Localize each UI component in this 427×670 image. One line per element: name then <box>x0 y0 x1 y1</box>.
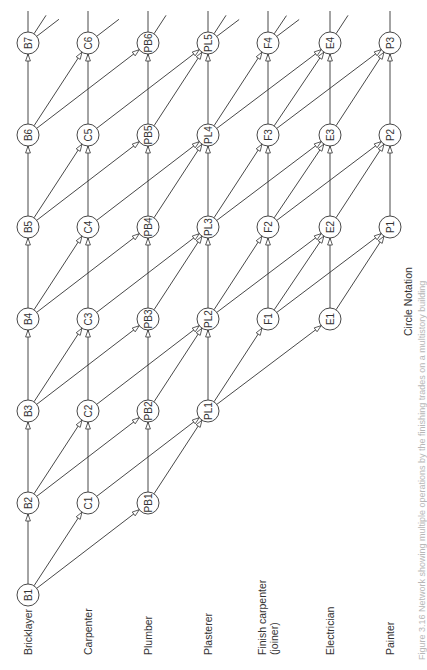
arrowhead-icon <box>76 236 82 243</box>
edge-F2-E3 <box>274 144 324 218</box>
svg-text:F4: F4 <box>263 37 274 49</box>
svg-text:E2: E2 <box>325 220 336 233</box>
figure-caption: Figure 3.16 Network showing multiple ope… <box>417 281 427 660</box>
arrowhead-icon <box>206 146 211 153</box>
arrowhead-icon <box>256 52 262 59</box>
node-pl4: PL4 <box>197 124 219 146</box>
arrowhead-icon <box>328 146 333 153</box>
edge-PB2-PL2 <box>154 328 202 402</box>
svg-text:PB3: PB3 <box>143 309 154 328</box>
edge-B4-C4 <box>34 236 82 310</box>
arrowhead-icon <box>76 144 82 151</box>
svg-text:E4: E4 <box>325 36 336 49</box>
svg-text:P3: P3 <box>385 36 396 49</box>
arrowhead-icon <box>206 54 211 61</box>
arrowhead-icon <box>76 328 82 335</box>
edge-B3-B4 <box>26 330 31 400</box>
arrowhead-icon <box>26 422 31 429</box>
svg-text:P2: P2 <box>385 128 396 141</box>
svg-text:E3: E3 <box>325 128 336 141</box>
svg-text:PB6: PB6 <box>143 33 154 52</box>
edge-C3-C4 <box>86 238 91 308</box>
edge-B1-B2 <box>26 514 31 584</box>
arrowhead-icon <box>146 330 151 337</box>
edge-PB3-PL3 <box>154 236 202 310</box>
node-pl3: PL3 <box>197 216 219 238</box>
arrowhead-icon <box>86 54 91 61</box>
arrowhead-icon <box>206 238 211 245</box>
edge-PL1-PL2 <box>206 330 211 400</box>
node-f2: F2 <box>257 216 279 238</box>
edge-PB4-PL4 <box>154 144 202 218</box>
arrowhead-icon <box>26 514 31 521</box>
arrowhead-icon <box>328 54 333 61</box>
svg-text:B5: B5 <box>23 220 34 233</box>
node-pb1: PB1 <box>137 492 159 514</box>
stub-PB6-PL <box>154 15 166 33</box>
node-f3: F3 <box>257 124 279 146</box>
node-b2: B2 <box>17 492 39 514</box>
node-b5: B5 <box>17 216 39 238</box>
svg-text:PL4: PL4 <box>203 126 214 144</box>
node-p2: P2 <box>379 124 401 146</box>
node-c5: C5 <box>77 124 99 146</box>
svg-text:B2: B2 <box>23 496 34 509</box>
svg-text:C2: C2 <box>83 404 94 417</box>
svg-text:F1: F1 <box>263 313 274 325</box>
svg-text:PL1: PL1 <box>203 402 214 420</box>
arrowhead-icon <box>86 422 91 429</box>
edge-PL1-E1 <box>217 326 321 405</box>
trade-label-finish-carpenter: Finish carpenter(joiner) <box>256 580 280 655</box>
arrowhead-icon <box>206 330 211 337</box>
arrowhead-icon <box>266 54 271 61</box>
edge-P1-P2 <box>388 146 393 216</box>
arrowhead-icon <box>76 420 82 427</box>
edge-PL4-PL5 <box>206 54 211 124</box>
node-c4: C4 <box>77 216 99 238</box>
stub-PL5-E <box>217 20 239 37</box>
edge-F3-E4 <box>274 52 324 126</box>
arrowhead-icon <box>86 238 91 245</box>
node-e4: E4 <box>319 32 341 54</box>
arrowhead-icon <box>146 422 151 429</box>
svg-text:B6: B6 <box>23 128 34 141</box>
edge-PL1-F1 <box>214 328 262 402</box>
svg-text:F3: F3 <box>263 129 274 141</box>
node-p3: P3 <box>379 32 401 54</box>
node-pl5: PL5 <box>197 32 219 54</box>
edge-PB1-PL1 <box>154 420 202 494</box>
edge-PB3-PB4 <box>146 238 151 308</box>
node-c2: C2 <box>77 400 99 422</box>
arrowhead-icon <box>146 54 151 61</box>
node-pl2: PL2 <box>197 308 219 330</box>
svg-text:C4: C4 <box>83 220 94 233</box>
node-c3: C3 <box>77 308 99 330</box>
edge-B5-B6 <box>26 146 31 216</box>
arrowhead-icon <box>256 328 262 335</box>
edge-B4-B5 <box>26 238 31 308</box>
node-pl1: PL1 <box>197 400 219 422</box>
node-c6: C6 <box>77 32 99 54</box>
arrowhead-icon <box>328 238 333 245</box>
arrowhead-icon <box>388 146 393 153</box>
arrowhead-icon <box>76 52 82 59</box>
edge-E3-P3 <box>336 52 384 126</box>
edge-F3-P3 <box>277 50 381 129</box>
svg-text:P1: P1 <box>385 220 396 233</box>
node-pb4: PB4 <box>137 216 159 238</box>
node-b7: B7 <box>17 32 39 54</box>
svg-text:PB5: PB5 <box>143 125 154 144</box>
svg-text:E1: E1 <box>325 312 336 325</box>
stub-B7-PB <box>37 19 59 36</box>
trade-label-carpenter: Carpenter <box>82 608 94 655</box>
trade-label-electrician: Electrician <box>324 607 336 655</box>
svg-text:PB4: PB4 <box>143 217 154 236</box>
node-e3: E3 <box>319 124 341 146</box>
svg-text:C5: C5 <box>83 128 94 141</box>
edge-F1-P1 <box>277 234 381 313</box>
edge-C4-C5 <box>86 146 91 216</box>
trade-label-painter: Painter <box>384 622 396 655</box>
arrowhead-icon <box>132 510 139 516</box>
node-pb3: PB3 <box>137 308 159 330</box>
